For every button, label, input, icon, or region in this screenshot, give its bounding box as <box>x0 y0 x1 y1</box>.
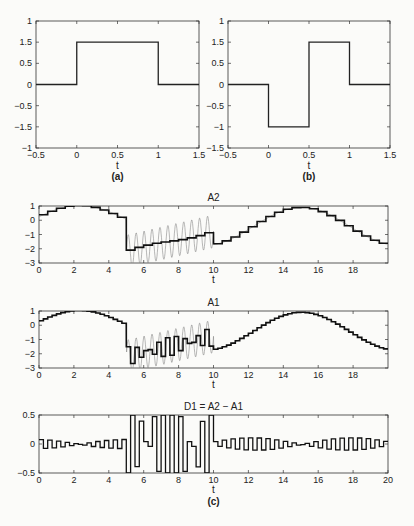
x-tick-label: 14 <box>278 265 288 275</box>
y-tick-label: 0 <box>30 439 35 449</box>
x-tick-label: 18 <box>348 370 358 380</box>
y-tick-label: −1 <box>22 143 32 153</box>
x-tick-label: 14 <box>278 475 288 485</box>
x-tick-label: 2 <box>71 265 76 275</box>
plot-b: −0.500.511.511.50.50−0.5−1−1.5t(b) <box>206 16 396 182</box>
x-tick-label: 4 <box>106 265 111 275</box>
x-tick-label: 16 <box>313 475 323 485</box>
y-tick-label: 0.5 <box>19 58 32 68</box>
x-tick-label: 1.5 <box>384 150 397 160</box>
x-tick-label: 6 <box>141 475 146 485</box>
y-tick-label: −1 <box>25 335 35 345</box>
x-tick-label: 6 <box>141 370 146 380</box>
y-tick-label: −1.5 <box>14 122 32 132</box>
x-tick-label: 16 <box>313 370 323 380</box>
y-tick-label: −1.5 <box>206 143 224 153</box>
figure: −0.500.511.511.50.50−0.5−1.5−1t(a)−0.500… <box>0 0 414 526</box>
haar-wavelet-line <box>228 42 390 127</box>
svg-text:t: t <box>116 160 119 171</box>
approximation-line <box>39 205 388 250</box>
y-tick-label: 1.5 <box>19 37 32 47</box>
x-tick-label: 8 <box>176 475 181 485</box>
svg-text:t: t <box>212 379 215 390</box>
y-tick-label: −3 <box>25 363 35 373</box>
y-tick-label: −0.5 <box>14 101 32 111</box>
x-tick-label: 4 <box>106 370 111 380</box>
x-tick-label: 1.5 <box>193 150 206 160</box>
y-tick-label: 0 <box>27 80 32 90</box>
y-tick-label: 0.5 <box>22 410 35 420</box>
x-tick-label: 14 <box>278 370 288 380</box>
x-tick-label: 4 <box>106 475 111 485</box>
y-tick-label: −2 <box>25 349 35 359</box>
caption-b: (b) <box>303 171 316 182</box>
x-tick-label: 12 <box>243 475 253 485</box>
y-tick-label: −1 <box>214 122 224 132</box>
x-tick-label: 0.5 <box>303 150 316 160</box>
y-tick-label: −3 <box>25 258 35 268</box>
x-tick-label: 8 <box>176 265 181 275</box>
x-tick-label: 0 <box>36 475 41 485</box>
y-tick-label: 0.5 <box>211 58 224 68</box>
x-tick-label: 8 <box>176 370 181 380</box>
svg-text:t: t <box>212 484 215 495</box>
caption-c: (c) <box>207 496 219 507</box>
x-tick-label: 18 <box>348 475 358 485</box>
y-tick-label: 1 <box>30 201 35 211</box>
y-tick-label: −0.5 <box>17 468 35 478</box>
plot-title: A2 <box>207 192 220 203</box>
detail-line <box>39 415 388 473</box>
y-tick-label: −0.5 <box>206 101 224 111</box>
x-tick-label: 2 <box>71 370 76 380</box>
y-tick-label: 0 <box>219 80 224 90</box>
y-tick-label: 0 <box>30 320 35 330</box>
x-tick-label: 12 <box>243 370 253 380</box>
plot-title: A1 <box>207 297 220 308</box>
y-tick-label: −1 <box>25 230 35 240</box>
x-tick-label: 0.5 <box>111 150 124 160</box>
plot-A1: 02468101214161810−1−2−3A1t <box>25 297 388 390</box>
plot-D1: 024681012141618200.50−0.5D1 = A2 − A1t(c… <box>17 401 393 507</box>
x-tick-label: 6 <box>141 265 146 275</box>
x-tick-label: 20 <box>383 475 393 485</box>
plot-title: D1 = A2 − A1 <box>184 401 243 412</box>
x-tick-label: 1 <box>156 150 161 160</box>
y-tick-label: −2 <box>25 244 35 254</box>
x-tick-label: 16 <box>313 265 323 275</box>
x-tick-label: 0 <box>266 150 271 160</box>
x-tick-label: 0 <box>74 150 79 160</box>
x-tick-label: 2 <box>71 475 76 485</box>
x-tick-label: 18 <box>348 265 358 275</box>
caption-a: (a) <box>111 171 123 182</box>
svg-text:t: t <box>308 160 311 171</box>
plot-a: −0.500.511.511.50.50−0.5−1.5−1t(a) <box>14 16 205 182</box>
signal-line <box>39 310 388 371</box>
y-tick-label: 1.5 <box>211 37 224 47</box>
haar-scaling-line <box>36 42 199 84</box>
y-tick-label: 1 <box>219 16 224 26</box>
y-tick-label: 0 <box>30 215 35 225</box>
y-tick-label: 1 <box>27 16 32 26</box>
x-tick-label: 0 <box>36 370 41 380</box>
x-tick-label: 12 <box>243 265 253 275</box>
x-tick-label: 0 <box>36 265 41 275</box>
svg-text:t: t <box>212 274 215 285</box>
plot-A2: 02468101214161810−1−2−3A2t <box>25 192 388 285</box>
x-tick-label: 1 <box>347 150 352 160</box>
y-tick-label: 1 <box>30 306 35 316</box>
